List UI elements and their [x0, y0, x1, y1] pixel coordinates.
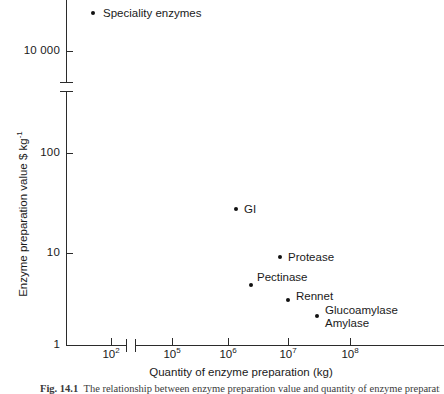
x-tick-base: 10 — [102, 348, 115, 360]
datapoint-label-glucoamylase-amylase: GlucoamylaseAmylase — [325, 304, 398, 329]
datapoint-label-gi: GI — [244, 203, 256, 215]
y-tick-label-100: 100 — [0, 146, 60, 158]
datapoint-label-rennet: Rennet — [296, 290, 333, 302]
x-tick-label-10e8: 108 — [341, 348, 358, 360]
x-tick-label-10e5: 105 — [163, 348, 180, 360]
datapoint-rennet[interactable] — [286, 298, 290, 302]
datapoint-speciality-enzymes[interactable] — [91, 11, 95, 15]
datapoint-glucoamylase-amylase[interactable] — [315, 314, 319, 318]
datapoint-label-pectinase: Pectinase — [257, 271, 308, 283]
x-tick-base: 10 — [279, 348, 292, 360]
datapoint-label-line-2: Amylase — [325, 317, 398, 329]
x-tick-exponent: 5 — [176, 346, 180, 355]
x-tick-label-10e2: 102 — [102, 348, 119, 360]
x-axis-line — [66, 345, 444, 346]
x-tick-exponent: 8 — [354, 346, 358, 355]
y-tick-label-10000: 10 000 — [0, 44, 60, 56]
x-tick-base: 10 — [163, 348, 176, 360]
x-tick-label-10e7: 107 — [279, 348, 296, 360]
x-tick-exponent: 7 — [292, 346, 296, 355]
x-tick-exponent: 2 — [115, 346, 119, 355]
y-tick-10000 — [66, 51, 73, 52]
x-tick-base: 10 — [341, 348, 354, 360]
x-tick-base: 10 — [219, 348, 232, 360]
figure-caption-text: The relationship between enzyme preparat… — [83, 383, 440, 394]
y-tick-label-1: 1 — [0, 338, 60, 350]
x-tick-10e6 — [228, 338, 229, 345]
datapoint-pectinase[interactable] — [249, 283, 253, 287]
y-tick-label-10: 10 — [0, 246, 60, 258]
x-tick-label-10e6: 106 — [219, 348, 236, 360]
x-tick-10e2 — [111, 338, 112, 345]
y-axis-title-exponent: -1 — [15, 131, 24, 138]
datapoint-label-protease: Protease — [288, 251, 334, 263]
y-axis-title: Enzyme preparation value $ kg-1 — [17, 99, 29, 329]
x-axis-break-icon — [126, 339, 137, 352]
figure-scatter-plot: 10 000 100 10 1 102 105 106 107 108 Enzy… — [0, 0, 444, 394]
y-tick-100 — [66, 153, 73, 154]
figure-caption-number: Fig. 14.1 — [40, 383, 78, 394]
y-axis-title-text: Enzyme preparation value $ kg — [17, 138, 29, 297]
datapoint-label-line-1: Glucoamylase — [325, 304, 398, 316]
datapoint-label-speciality-enzymes: Speciality enzymes — [103, 7, 201, 19]
figure-caption: Fig. 14.1 The relationship between enzym… — [40, 383, 440, 394]
datapoint-protease[interactable] — [278, 255, 282, 259]
x-axis-title: Quantity of enzyme preparation (kg) — [66, 366, 416, 378]
x-tick-10e5 — [172, 338, 173, 345]
y-tick-10 — [66, 253, 73, 254]
x-tick-exponent: 6 — [232, 346, 236, 355]
x-tick-10e8 — [350, 338, 351, 345]
x-tick-10e7 — [288, 338, 289, 345]
y-axis-break-icon — [60, 82, 73, 93]
datapoint-gi[interactable] — [234, 207, 238, 211]
